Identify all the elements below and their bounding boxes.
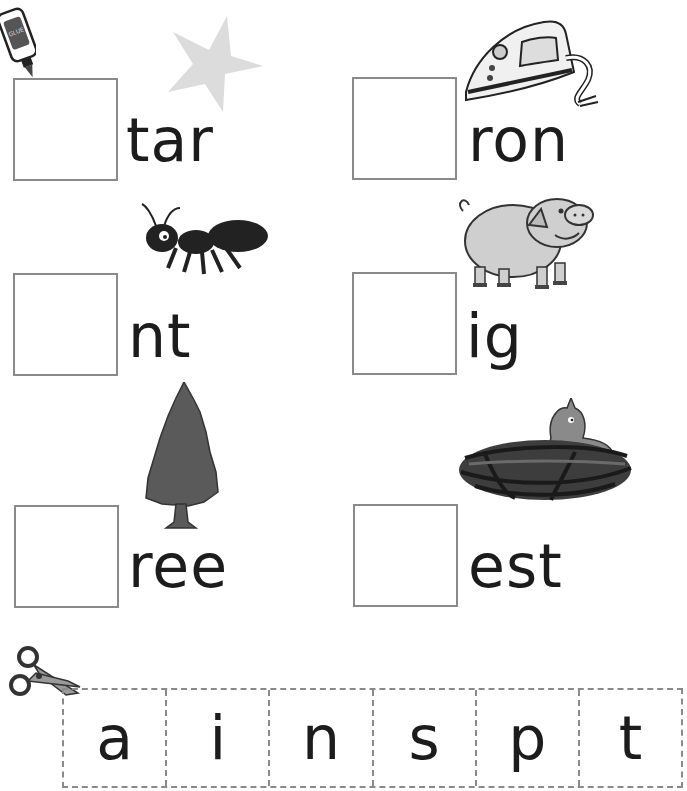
word-ending-ant: nt: [128, 306, 192, 366]
answer-box-tree[interactable]: [14, 505, 119, 608]
glue-bottle-icon: GLUE: [0, 0, 36, 85]
cutout-tile-t[interactable]: t: [580, 690, 681, 786]
cutout-tile-i[interactable]: i: [167, 690, 270, 786]
answer-box-iron[interactable]: [352, 77, 457, 180]
pig-icon: [455, 193, 600, 293]
star-icon: [165, 14, 265, 114]
cutout-tile-n[interactable]: n: [270, 690, 373, 786]
nest-icon: [455, 398, 635, 513]
answer-box-ant[interactable]: [13, 273, 118, 376]
cutout-tile-a[interactable]: a: [64, 690, 167, 786]
ant-icon: [140, 196, 270, 284]
answer-box-pig[interactable]: [352, 272, 457, 375]
cutout-tile-p[interactable]: p: [477, 690, 580, 786]
answer-box-star[interactable]: [13, 78, 118, 181]
cutout-letter-strip: a i n s p t: [62, 688, 683, 788]
answer-box-nest[interactable]: [353, 504, 458, 607]
iron-icon: [464, 10, 604, 110]
word-ending-tree: ree: [128, 536, 228, 596]
word-ending-star: tar: [126, 110, 214, 170]
tree-icon: [142, 382, 222, 532]
word-ending-iron: ron: [468, 110, 569, 170]
cutout-tile-s[interactable]: s: [374, 690, 477, 786]
word-ending-nest: est: [468, 536, 563, 596]
word-ending-pig: ig: [466, 306, 523, 366]
